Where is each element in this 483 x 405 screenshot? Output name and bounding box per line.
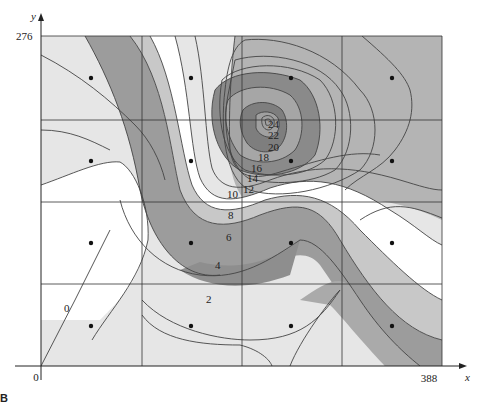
x-axis-arrow-icon [459,363,467,369]
contour-label-20: 20 [268,141,280,153]
contour-label-16: 16 [251,162,263,174]
figure-label: B [0,392,8,404]
contour-label-6: 6 [226,231,232,243]
contour-label-2: 2 [206,293,212,305]
y-axis-label: y [30,10,36,22]
x-max-tick: 388 [421,372,438,384]
contour-map: y x 276 388 0 0 2 4 6 8 10 12 14 16 18 2… [0,0,483,405]
contour-label-0: 0 [64,302,70,314]
contour-label-4: 4 [215,259,221,271]
x-axis-label: x [464,371,470,383]
contour-label-10: 10 [227,188,239,200]
contour-label-24: 24 [268,118,280,130]
contour-label-22: 22 [268,129,279,141]
y-max-tick: 276 [16,30,33,42]
contour-label-12: 12 [243,183,254,195]
contour-label-8: 8 [228,209,234,221]
origin-tick: 0 [33,371,39,383]
y-axis-arrow-icon [38,13,44,21]
